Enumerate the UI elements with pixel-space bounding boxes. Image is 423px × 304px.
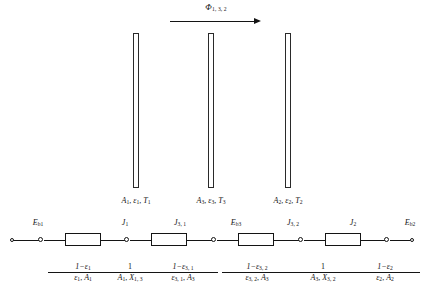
node-label-j1: J1 [95, 218, 155, 227]
plate-2-temperature-sub: 2 [300, 199, 303, 205]
wire-segment-3 [130, 240, 152, 241]
flux-symbol: Φ [205, 2, 212, 12]
flux-arrow-line [170, 21, 256, 22]
plate-3-temperature-sub: 3 [223, 199, 226, 205]
node-label-j32: J3, 2 [263, 218, 323, 227]
wire-segment-1 [44, 240, 66, 241]
node-label-eb1: Eb1 [8, 218, 68, 227]
node-j1-dot [124, 237, 129, 242]
wire-segment-7 [304, 240, 326, 241]
resistor-box-3 [238, 233, 274, 246]
denominator: ε2, A2 [350, 272, 420, 283]
resistor-box-1 [65, 233, 101, 246]
numerator: 1−ε2 [350, 262, 420, 272]
wire-segment-2 [101, 240, 126, 241]
terminal-left [10, 238, 14, 242]
node-eb3-dot [298, 237, 303, 242]
denominator: ε3, 1, A3 [148, 272, 218, 283]
node-label-j2: J2 [323, 218, 383, 227]
numerator: 1−ε3, 2 [222, 262, 292, 272]
figure-canvas: Φ1, 3, 2 A1, ε1, T1 A3, ε3, T3 A2, ε2, T… [0, 0, 423, 304]
node-eb1-dot [38, 237, 43, 242]
resistance-network: Eb1 J1 J3, 1 Eb3 J3, 2 J2 Eb2 [0, 218, 423, 252]
resistance-expression-3: 1−ε3, 1 ε3, 1, A3 [148, 262, 218, 283]
node-label-eb2: Eb2 [380, 218, 423, 227]
wire-segment-0 [12, 240, 40, 241]
numerator: 1−ε3, 1 [148, 262, 218, 272]
resistor-box-2 [151, 233, 187, 246]
node-label-j31: J3, 1 [150, 218, 210, 227]
flux-arrow-head-icon [254, 18, 261, 24]
flux-arrow-group: Φ1, 3, 2 [168, 2, 264, 28]
node-j31-dot [211, 237, 216, 242]
wire-segment-9 [390, 240, 410, 241]
wire-segment-4 [187, 240, 213, 241]
terminal-right [410, 238, 414, 242]
denominator: ε3, 2, A3 [222, 272, 292, 283]
denominator: A3, X3, 2 [288, 272, 358, 283]
flux-label: Φ1, 3, 2 [168, 2, 264, 12]
wire-segment-6 [274, 240, 300, 241]
flux-subscript: 1, 3, 2 [212, 6, 227, 12]
node-j32-dot [384, 237, 389, 242]
node-label-eb3: Eb3 [206, 218, 266, 227]
resistor-box-4 [325, 233, 361, 246]
plate-1-temperature-sub: 1 [148, 199, 151, 205]
wire-segment-8 [361, 240, 386, 241]
resistance-expression-6: 1−ε2 ε2, A2 [350, 262, 420, 283]
plate-3 [208, 33, 214, 188]
plate-1 [133, 33, 139, 188]
numerator: 1 [288, 262, 358, 272]
plate-2-caption: A2, ε2, T2 [233, 196, 343, 205]
resistance-expression-5: 1 A3, X3, 2 [288, 262, 358, 283]
wire-segment-5 [217, 240, 239, 241]
resistance-expression-4: 1−ε3, 2 ε3, 2, A3 [222, 262, 292, 283]
plate-2 [285, 33, 291, 188]
